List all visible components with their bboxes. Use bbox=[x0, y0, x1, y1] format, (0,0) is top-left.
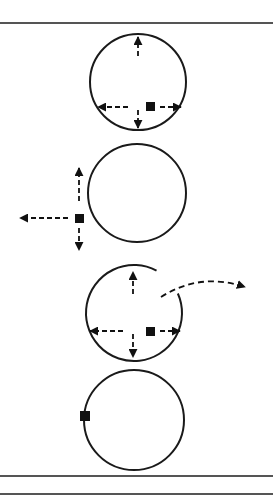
broken-circle bbox=[86, 265, 182, 361]
circle bbox=[88, 144, 186, 242]
circle bbox=[84, 370, 184, 470]
escape-arrow-icon bbox=[161, 281, 245, 297]
particle-square bbox=[80, 411, 90, 421]
particle-square bbox=[75, 214, 84, 223]
panel-4 bbox=[80, 370, 184, 470]
particle-square bbox=[146, 102, 155, 111]
particle-square bbox=[146, 327, 155, 336]
panel-1 bbox=[90, 34, 186, 130]
diagram-canvas bbox=[0, 0, 273, 496]
panel-3 bbox=[86, 265, 245, 361]
circle bbox=[90, 34, 186, 130]
panel-2 bbox=[20, 144, 186, 250]
